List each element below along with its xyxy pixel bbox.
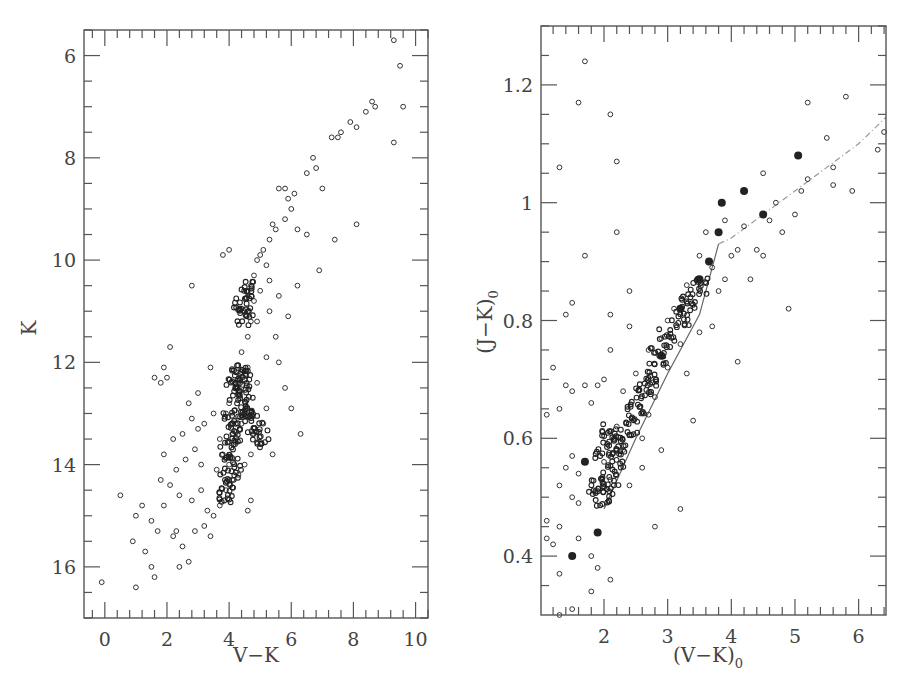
x-tick-label: 2 — [161, 628, 173, 650]
right-axes-frame: 234560.40.60.811.2 — [503, 26, 886, 647]
y-tick-label: 10 — [52, 249, 76, 271]
y-tick-label: 0.6 — [503, 427, 533, 449]
right-x-axis-title-main: (V−K) — [673, 643, 735, 667]
figure: 02468106810121416 V−K K 234560.40.60.811… — [0, 0, 908, 689]
left-y-axis-title: K — [17, 319, 41, 335]
x-tick-label: 0 — [99, 628, 111, 650]
y-tick-label: 1 — [521, 192, 533, 214]
right-y-axis-title: (J−K)0 — [473, 290, 501, 354]
right-x-axis-title: (V−K)0 — [673, 643, 743, 671]
right-x-axis-title-sub: 0 — [735, 656, 743, 671]
right-scatter-points — [544, 59, 886, 617]
x-tick-label: 5 — [789, 625, 801, 647]
y-tick-label: 16 — [52, 556, 76, 578]
x-tick-label: 8 — [347, 628, 359, 650]
y-tick-label: 1.2 — [503, 74, 533, 96]
left-panel-cmd: 02468106810121416 V−K K — [17, 30, 428, 667]
left-axes-frame: 02468106810121416 — [52, 30, 428, 650]
y-tick-label: 6 — [64, 45, 76, 67]
x-tick-label: 10 — [403, 628, 427, 650]
x-tick-label: 6 — [853, 625, 865, 647]
y-tick-label: 0.8 — [503, 310, 533, 332]
right-reference-line — [604, 117, 886, 509]
left-scatter-points — [99, 38, 405, 590]
right-panel-color-color: 234560.40.60.811.2 (V−K)0 (J−K)0 — [473, 26, 886, 671]
right-y-axis-title-main: (J−K) — [473, 298, 497, 353]
x-tick-label: 6 — [285, 628, 297, 650]
x-tick-label: 3 — [662, 625, 674, 647]
left-x-axis-title: V−K — [232, 643, 280, 667]
y-tick-label: 12 — [52, 351, 76, 373]
y-tick-label: 0.4 — [503, 545, 533, 567]
right-y-axis-title-sub: 0 — [486, 290, 501, 298]
plot-frame — [541, 26, 886, 615]
x-tick-label: 2 — [598, 625, 610, 647]
y-tick-label: 8 — [64, 147, 76, 169]
y-tick-label: 14 — [52, 454, 76, 476]
